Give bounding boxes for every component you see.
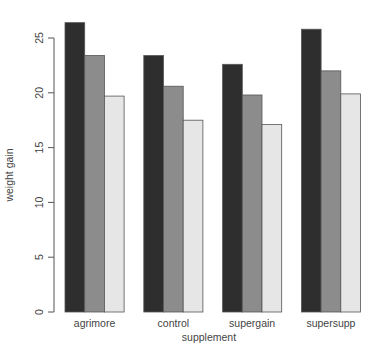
y-tick-label: 10	[33, 196, 45, 208]
bar-supergain-1	[223, 64, 243, 312]
y-tick-label: 5	[33, 254, 45, 260]
x-tick-label: agrimore	[74, 317, 116, 329]
y-tick-label: 0	[33, 309, 45, 315]
bar-control-1	[144, 56, 164, 312]
y-tick-label: 15	[33, 142, 45, 154]
x-axis-title: supplement	[182, 331, 236, 343]
x-tick-label: supersupp	[306, 317, 355, 329]
bar-control-2	[164, 86, 184, 312]
y-tick-label: 25	[33, 32, 45, 44]
bar-supersupp-2	[321, 71, 341, 312]
bar-agrimore-3	[104, 96, 124, 312]
x-axis-labels: agrimorecontrolsupergainsupersupp	[74, 317, 356, 329]
bar-control-3	[183, 120, 203, 312]
bar-supergain-3	[262, 125, 282, 312]
x-tick-label: supergain	[229, 317, 275, 329]
bar-supersupp-1	[301, 29, 321, 312]
bar-supersupp-3	[341, 94, 361, 312]
bar-chart: 0510152025 agrimorecontrolsupergainsuper…	[0, 0, 384, 363]
bars	[65, 23, 361, 312]
bar-agrimore-2	[85, 56, 105, 312]
bar-agrimore-1	[65, 23, 85, 312]
y-axis-title: weight gain	[3, 148, 15, 202]
y-axis: 0510152025	[33, 32, 54, 315]
bar-supergain-2	[242, 95, 262, 312]
x-tick-label: control	[158, 317, 190, 329]
y-tick-label: 20	[33, 87, 45, 99]
